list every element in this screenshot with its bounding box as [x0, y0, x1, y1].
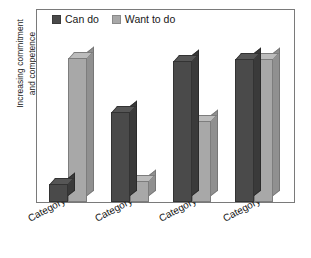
legend-label-want-to-do: Want to do — [125, 14, 175, 25]
bar-side-face — [130, 101, 137, 196]
chart-legend: Can do Want to do — [52, 14, 175, 25]
bar-side-face — [254, 48, 261, 196]
bar-can-do — [235, 59, 254, 202]
legend-label-can-do: Can do — [65, 14, 99, 25]
bar-side-face — [211, 110, 218, 196]
legend-item-want-to-do: Want to do — [112, 14, 175, 25]
bar-front-face — [49, 184, 68, 202]
legend-swatch-can-do-icon — [52, 15, 61, 24]
bar-side-face — [87, 46, 94, 196]
bar-can-do — [111, 112, 130, 202]
bar-side-face — [273, 48, 280, 196]
bar-front-face — [173, 61, 192, 202]
bar-front-face — [111, 112, 130, 202]
bar-front-face — [235, 59, 254, 202]
bar-can-do — [173, 61, 192, 202]
bar-side-face — [192, 49, 199, 196]
bar-can-do — [49, 184, 68, 202]
legend-item-can-do: Can do — [52, 14, 99, 25]
legend-swatch-want-to-do-icon — [112, 15, 121, 24]
bar-chart: Increasing commitment and competence Can… — [0, 0, 311, 258]
